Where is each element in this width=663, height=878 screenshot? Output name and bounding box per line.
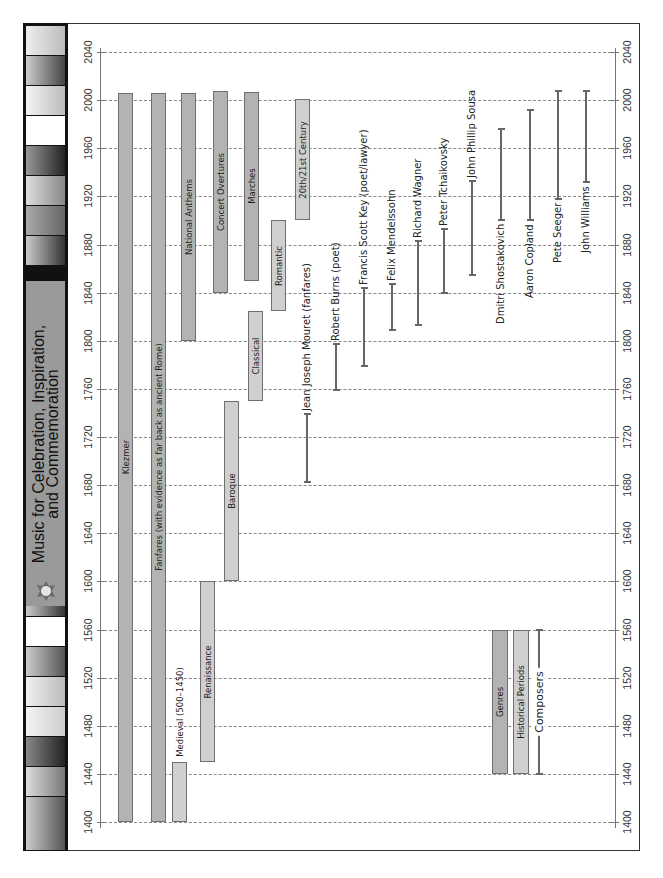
axis-tick bbox=[97, 245, 105, 246]
composer-line bbox=[443, 229, 445, 293]
gridline bbox=[104, 389, 611, 390]
composer-label: Robert Burns (poet) bbox=[330, 243, 341, 342]
composer-line bbox=[500, 129, 502, 220]
period-bar-label: Baroque bbox=[227, 473, 237, 509]
decorative-swatch bbox=[26, 236, 65, 265]
decorative-swatch bbox=[26, 176, 65, 205]
composer-label: Felix Mendelssohn bbox=[386, 190, 397, 282]
axis-tick bbox=[611, 196, 619, 197]
axis-tick bbox=[97, 52, 105, 53]
decorative-swatch bbox=[26, 146, 65, 175]
axis-tick bbox=[611, 245, 619, 246]
composer-cap bbox=[333, 389, 340, 391]
title-panel: Music for Celebration, Inspiration, and … bbox=[26, 281, 65, 606]
axis-tick bbox=[611, 293, 619, 294]
composer-line bbox=[529, 110, 531, 221]
axis-tick bbox=[611, 822, 619, 823]
composer-cap bbox=[469, 274, 476, 276]
composer-cap bbox=[527, 109, 534, 111]
period-bar: Baroque bbox=[224, 401, 239, 581]
axis-tick bbox=[97, 485, 105, 486]
genre-bar: Fanfares (with evidence as far back as a… bbox=[151, 93, 166, 822]
axis-label-left: 1520 bbox=[82, 666, 94, 689]
decorative-swatch bbox=[26, 737, 65, 766]
axis-tick bbox=[611, 678, 619, 679]
axis-label-left: 1720 bbox=[82, 425, 94, 448]
composer-cap bbox=[361, 365, 368, 367]
axis-tick bbox=[97, 533, 105, 534]
period-bar-label: Classical bbox=[251, 337, 261, 374]
axis-label-right: 1520 bbox=[621, 666, 633, 689]
composer-cap bbox=[498, 128, 505, 130]
axis-label-right: 1720 bbox=[621, 425, 633, 448]
axis-label-right: 1960 bbox=[621, 137, 633, 160]
period-bar: 20th/21st Century bbox=[295, 99, 310, 221]
axis-label-right: 1640 bbox=[621, 522, 633, 545]
axis-label-right: 1800 bbox=[621, 329, 633, 352]
legend-composers-cap bbox=[536, 773, 543, 775]
title-strip: Music for Celebration, Inspiration, and … bbox=[23, 23, 68, 851]
chart-title-line2: and Commemoration bbox=[46, 324, 60, 562]
period-bar: Classical bbox=[248, 311, 263, 401]
period-bar: Medieval (500–1450) bbox=[172, 762, 187, 822]
composer-cap bbox=[555, 198, 562, 200]
composer-line bbox=[306, 414, 308, 481]
composer-cap bbox=[583, 181, 590, 183]
axis-tick bbox=[611, 52, 619, 53]
composer-cap bbox=[555, 90, 562, 92]
period-bar: Romantic bbox=[271, 220, 286, 310]
decorative-swatch bbox=[26, 26, 65, 55]
axis-label-right: 1840 bbox=[621, 281, 633, 304]
composer-cap bbox=[389, 329, 396, 331]
axis-label-left: 2040 bbox=[82, 40, 94, 63]
axis-tick bbox=[611, 437, 619, 438]
genre-bar-label: National Anthems bbox=[184, 179, 194, 255]
composer-cap bbox=[389, 283, 396, 285]
axis-label-left: 1920 bbox=[82, 185, 94, 208]
axis-label-left: 1600 bbox=[82, 570, 94, 593]
axis-tick bbox=[97, 341, 105, 342]
genre-bar-label: Fanfares (with evidence as far back as a… bbox=[154, 344, 164, 572]
decorative-swatch bbox=[26, 116, 65, 145]
legend-composers-label: Composers bbox=[533, 668, 546, 736]
left-axis-line bbox=[100, 48, 101, 828]
axis-tick bbox=[97, 437, 105, 438]
axis-tick bbox=[97, 822, 105, 823]
axis-label-right: 1440 bbox=[621, 762, 633, 785]
period-bar-label: Renaissance bbox=[203, 645, 213, 698]
gridline bbox=[104, 485, 611, 486]
composer-cap bbox=[583, 90, 590, 92]
axis-tick bbox=[611, 726, 619, 727]
legend-genres-bar: Genres bbox=[492, 630, 508, 774]
axis-label-left: 1560 bbox=[82, 618, 94, 641]
genre-bar: National Anthems bbox=[181, 93, 196, 341]
axis-tick bbox=[611, 148, 619, 149]
composer-cap bbox=[469, 180, 476, 182]
axis-tick bbox=[97, 630, 105, 631]
composer-label: Jean Joseph Mouret (fanfares) bbox=[301, 263, 312, 411]
gridline bbox=[104, 341, 611, 342]
axis-label-right: 1760 bbox=[621, 377, 633, 400]
genre-bar-label: Klezmer bbox=[121, 440, 131, 475]
composer-line bbox=[335, 344, 337, 390]
composer-label: Dmitri Shostakovich bbox=[495, 224, 506, 324]
axis-label-left: 2000 bbox=[82, 88, 94, 111]
axis-tick bbox=[611, 341, 619, 342]
axis-label-left: 1640 bbox=[82, 522, 94, 545]
axis-label-left: 1400 bbox=[82, 810, 94, 833]
axis-tick bbox=[611, 581, 619, 582]
composer-cap bbox=[527, 219, 534, 221]
composer-line bbox=[417, 241, 419, 325]
axis-label-right: 1600 bbox=[621, 570, 633, 593]
gridline bbox=[104, 822, 611, 823]
chart-title: Music for Celebration, Inspiration, and … bbox=[32, 324, 60, 562]
composer-cap bbox=[304, 481, 311, 483]
axis-tick bbox=[97, 678, 105, 679]
legend-composers-cap bbox=[536, 629, 543, 631]
decorative-swatch bbox=[26, 86, 65, 115]
composer-label: Richard Wagner bbox=[412, 158, 423, 237]
genre-bar-label: Marches bbox=[247, 168, 257, 204]
composer-line bbox=[585, 91, 587, 182]
composer-cap bbox=[415, 240, 422, 242]
composer-label: Francis Scott Key (poet/lawyer) bbox=[358, 129, 369, 285]
